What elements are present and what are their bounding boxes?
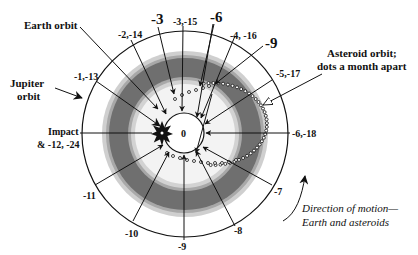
center-label: 0 xyxy=(181,128,186,139)
marker-label: -3,-15 xyxy=(173,16,197,27)
asteroid-dot xyxy=(208,85,211,88)
asteroid-dot xyxy=(264,114,267,117)
jupiter-orbit-arrow xyxy=(55,88,82,98)
asteroid-orbit-label-2: dots a month apart xyxy=(317,60,407,72)
asteroid-dot xyxy=(254,98,257,101)
impact-label-1: Impact xyxy=(48,126,79,137)
asteroid-dot xyxy=(246,154,249,157)
asteroid-dot xyxy=(209,164,212,167)
asteroid-dot xyxy=(226,83,229,86)
asteroid-dot xyxy=(258,143,261,146)
direction-arrow-icon xyxy=(283,176,305,221)
marker-label: -5,-17 xyxy=(276,68,300,79)
asteroid-dot xyxy=(259,104,262,107)
asteroid-dot xyxy=(212,82,215,85)
asteroid-orbit-label-1: Asteroid orbit; xyxy=(327,47,397,59)
marker-label-big: -9 xyxy=(265,35,278,51)
asteroid-dot xyxy=(262,107,265,110)
asteroid-dot xyxy=(242,157,245,160)
asteroid-dot xyxy=(235,159,238,162)
asteroid-dot xyxy=(188,91,191,94)
asteroid-dot xyxy=(240,88,243,91)
asteroid-dot xyxy=(251,95,254,98)
asteroid-dot xyxy=(195,89,198,92)
asteroid-dot xyxy=(236,86,239,89)
orbit-diagram: 0 Earth orbit Jupiter orbit Impact & -12… xyxy=(0,0,418,255)
asteroid-dot xyxy=(186,159,189,162)
marker-label-big: -3 xyxy=(151,11,164,27)
marker-label: -6,-18 xyxy=(292,128,316,139)
impact-label-2: & -12, -24 xyxy=(37,139,80,150)
asteroid-dot xyxy=(265,122,268,125)
asteroid-dot xyxy=(265,129,268,132)
marker-label: -10 xyxy=(125,228,138,239)
asteroid-dot xyxy=(257,101,260,104)
asteroid-dot xyxy=(224,162,227,165)
marker-label: -8 xyxy=(234,225,242,236)
asteroid-dot xyxy=(207,82,210,85)
asteroid-dot xyxy=(207,162,210,165)
asteroid-dot xyxy=(265,118,268,121)
marker-label: -1,-13 xyxy=(74,71,98,82)
asteroid-dot xyxy=(265,125,268,128)
asteroid-dot xyxy=(174,98,177,101)
asteroid-dot xyxy=(262,136,265,139)
marker-label: -11 xyxy=(83,190,96,201)
asteroid-dot xyxy=(244,90,247,93)
marker-label: -9 xyxy=(178,241,186,252)
earth-orbit-label: Earth orbit xyxy=(24,19,78,31)
jupiter-orbit-label-2: orbit xyxy=(17,90,41,102)
asteroid-dot xyxy=(253,149,256,152)
asteroid-dot xyxy=(179,157,182,160)
direction-label-1: Direction of motion— xyxy=(301,202,398,214)
asteroid-dot xyxy=(249,152,252,155)
asteroid-dot xyxy=(172,155,175,158)
marker-label: -4, -16 xyxy=(230,30,257,41)
asteroid-dot xyxy=(238,158,241,161)
asteroid-dot xyxy=(256,146,259,149)
asteroid-dot xyxy=(193,160,196,163)
asteroid-dot xyxy=(214,162,217,165)
asteroid-dot xyxy=(222,82,225,85)
jupiter-orbit-label-1: Jupiter xyxy=(10,77,44,89)
marker-label: -2,-14 xyxy=(118,29,142,40)
asteroid-dot xyxy=(260,140,263,143)
asteroid-dot xyxy=(221,162,224,165)
asteroid-dot xyxy=(263,111,266,114)
direction-label-2: Earth and asteroids xyxy=(301,216,389,228)
marker-label-big: -6 xyxy=(210,9,223,25)
asteroid-dot xyxy=(231,84,234,87)
marker-label: -7 xyxy=(274,186,282,197)
